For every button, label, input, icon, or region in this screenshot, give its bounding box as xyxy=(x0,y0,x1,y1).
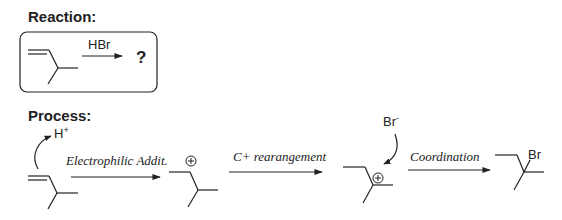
carbocation-secondary xyxy=(169,172,218,207)
step-label-coordination: Coordination xyxy=(410,149,480,164)
product-bromine-label: Br xyxy=(528,147,542,162)
curved-arrow-proton xyxy=(35,136,51,169)
step-label-electrophilic-addition: Electrophilic Addit. xyxy=(65,153,168,168)
bromide-label: Br- xyxy=(383,113,399,129)
step-label-rearrangement: C+ rearangement xyxy=(233,149,327,164)
reagent-label: HBr xyxy=(88,37,111,52)
process-reactant xyxy=(28,176,78,209)
reaction-box: HBr ? xyxy=(20,32,157,92)
unknown-product-label: ? xyxy=(136,48,146,67)
reactant-3-methyl-1-butene xyxy=(28,50,78,84)
reaction-scheme: HBr ? H+ Electrophilic Addit. C+ rearang… xyxy=(0,0,562,220)
proton-label: H+ xyxy=(54,125,69,141)
carbocation-tertiary xyxy=(343,167,393,203)
positive-charge-icon xyxy=(373,173,383,183)
positive-charge-icon xyxy=(186,156,196,166)
curved-arrow-bromide xyxy=(384,134,397,164)
